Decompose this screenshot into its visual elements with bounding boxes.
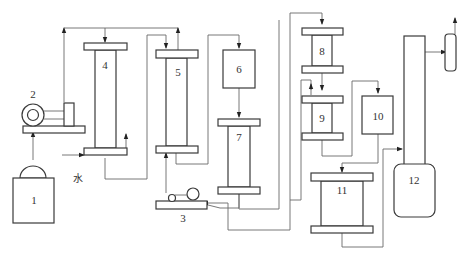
unit-3-label: 3 xyxy=(180,212,186,224)
column-9-bottom-flange xyxy=(302,133,343,140)
pump-2-inner-circle xyxy=(28,110,39,121)
pump-2-motor xyxy=(64,103,74,126)
unit-11-column: 11 xyxy=(311,173,373,233)
pump-3-base xyxy=(156,201,207,209)
unit-10-box: 10 xyxy=(362,96,393,134)
column-4-bottom-flange xyxy=(84,148,127,155)
unit-4-column: 4 xyxy=(84,43,127,155)
column-8-top-flange xyxy=(302,28,343,35)
column-5-top-flange xyxy=(156,50,198,58)
pipe-10-to-11 xyxy=(342,134,378,172)
column-9-top-flange xyxy=(302,96,343,103)
process-flow-diagram: 1 2 4 水 5 6 7 xyxy=(0,0,468,258)
unit-1-tank: 1 xyxy=(13,166,54,223)
column-11-bottom-flange xyxy=(311,226,373,233)
column-7-top-flange xyxy=(218,119,260,126)
pump-3-large-circle xyxy=(187,188,199,200)
unit-6-box: 6 xyxy=(223,50,255,88)
column-7-bottom-flange xyxy=(218,187,260,194)
column-8-bottom-flange xyxy=(302,66,343,73)
unit-7-column: 7 xyxy=(218,119,260,194)
unit-4-label: 4 xyxy=(102,59,108,71)
unit-11-label: 11 xyxy=(337,184,348,196)
tower-12-column xyxy=(404,36,425,165)
unit-2-label: 2 xyxy=(30,88,36,100)
pump-2-base xyxy=(23,126,85,133)
unit-5-column: 5 xyxy=(156,50,198,153)
tower-12-vessel xyxy=(394,164,435,217)
unit-6-label: 6 xyxy=(236,63,242,75)
column-11-top-flange xyxy=(311,173,373,181)
unit-5-label: 5 xyxy=(175,66,181,78)
unit-7-label: 7 xyxy=(236,131,242,143)
unit-8-column: 8 xyxy=(302,28,343,73)
unit-2-pump: 2 xyxy=(22,88,85,133)
tank-dome xyxy=(20,166,46,178)
unit-separator-vessel xyxy=(445,34,456,71)
unit-8-label: 8 xyxy=(319,45,325,57)
unit-12-tower: 12 xyxy=(394,36,435,217)
column-4-top-flange xyxy=(84,43,127,50)
unit-1-label: 1 xyxy=(31,194,37,206)
unit-10-label: 10 xyxy=(373,110,385,122)
unit-9-column: 9 xyxy=(302,96,343,140)
pump-3-small-circle xyxy=(169,195,176,202)
unit-9-label: 9 xyxy=(319,112,325,124)
unit-12-label: 12 xyxy=(409,174,420,186)
separator-vessel xyxy=(445,34,456,71)
water-label: 水 xyxy=(73,173,83,184)
unit-3-pump: 3 xyxy=(156,188,207,224)
column-5-bottom-flange xyxy=(156,146,198,153)
